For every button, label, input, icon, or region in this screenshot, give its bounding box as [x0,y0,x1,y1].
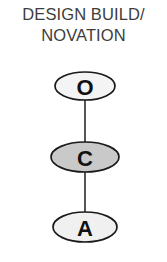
node-architect-label: A [77,216,93,241]
node-contractor-label: C [77,146,93,171]
node-architect[interactable]: A [53,212,117,242]
node-contractor[interactable]: C [51,142,119,172]
node-owner[interactable]: O [55,72,115,100]
node-owner-label: O [76,75,93,100]
diagram-canvas: DESIGN BUILD/ NOVATION O C A [0,0,167,262]
relationship-diagram: O C A [0,0,167,262]
